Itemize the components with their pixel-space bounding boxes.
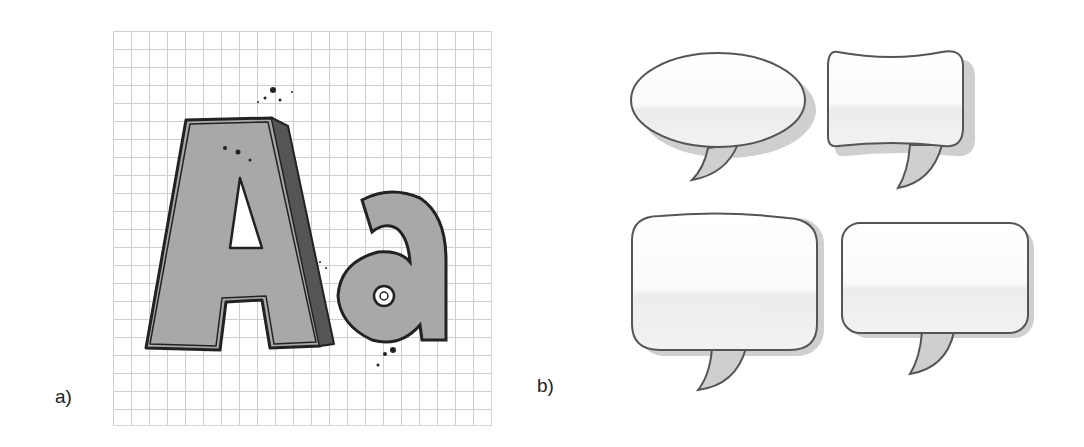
speech-balloon-concave-icon	[828, 51, 975, 188]
speech-balloon-rounded-rect-icon	[842, 223, 1034, 374]
speech-balloon-rounded-square-icon	[632, 213, 824, 390]
panel-label-b: b)	[537, 375, 554, 397]
speech-balloon-ellipse-icon	[631, 53, 816, 180]
